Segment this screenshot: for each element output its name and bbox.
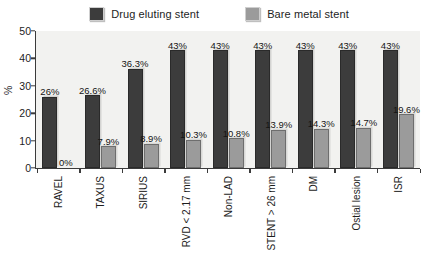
legend-item-bare-metal-stent: Bare metal stent: [245, 7, 349, 21]
bar: 43%: [213, 50, 228, 168]
bar: 26%: [42, 97, 57, 168]
y-axis: 50403020100: [0, 24, 35, 176]
legend-item-drug-eluting-stent: Drug eluting stent: [89, 7, 199, 21]
bar-value-label: 43%: [381, 41, 400, 51]
bar-group: 43%14.3%: [292, 31, 335, 168]
bar: 14.3%: [314, 129, 329, 168]
bar-value-label: 26.6%: [79, 86, 106, 96]
bar: 43%: [255, 50, 270, 168]
bar-value-label: 13.9%: [265, 120, 292, 130]
bar: 26.6%: [85, 95, 100, 168]
x-axis-category-label: ISR: [393, 176, 404, 193]
bar: 19.6%: [399, 114, 414, 168]
legend-swatch-bare-metal-stent: [245, 7, 260, 21]
x-axis-category-label: RVD < 2.17 mm: [180, 176, 191, 247]
bar: 36.3%: [128, 69, 143, 168]
bar: 7.9%: [101, 146, 116, 168]
bar-groups: 26%0%26.6%7.9%36.3%8.9%43%10.3%43%10.8%4…: [37, 31, 420, 168]
bar-value-label: 10.8%: [223, 129, 250, 139]
x-axis-label-cell: Ostial lesion: [335, 174, 378, 252]
legend-label-bare-metal-stent: Bare metal stent: [267, 8, 349, 20]
bar: 43%: [340, 50, 355, 168]
bar: 10.8%: [229, 138, 244, 168]
bar-value-label: 8.9%: [140, 134, 162, 144]
bar: 43%: [170, 50, 185, 168]
bar-group: 43%19.6%: [377, 31, 420, 168]
bar-value-label: 43%: [211, 41, 230, 51]
x-axis-category-label: STENT > 26 mm: [265, 176, 276, 251]
x-axis-label-cell: RAVEL: [37, 174, 80, 252]
bar-group: 26.6%7.9%: [79, 31, 122, 168]
x-axis-label-cell: SIRIUS: [122, 174, 165, 252]
bar-value-label: 14.3%: [308, 119, 335, 129]
bar: 8.9%: [144, 144, 159, 168]
bar-value-label: 26%: [40, 87, 59, 97]
bar-group: 43%10.8%: [207, 31, 250, 168]
x-axis-label-cell: DM: [292, 174, 335, 252]
x-axis-tick-mark: [122, 169, 123, 173]
bar-group: 36.3%8.9%: [122, 31, 165, 168]
x-axis-tick-mark: [79, 169, 80, 173]
y-axis-tick-label: 50: [19, 25, 31, 37]
x-axis-label-cell: Non-LAD: [207, 174, 250, 252]
y-axis-title: %: [2, 86, 14, 95]
bar-value-label: 14.7%: [350, 118, 377, 128]
bar-group: 43%13.9%: [249, 31, 292, 168]
bar-group: 43%14.7%: [335, 31, 378, 168]
x-axis-tick-mark: [420, 169, 421, 173]
bar-group: 26%0%: [37, 31, 80, 168]
bar-value-label: 43%: [296, 41, 315, 51]
x-axis-label-cell: ISR: [377, 174, 420, 252]
bar: 43%: [298, 50, 313, 168]
x-axis-label-cell: STENT > 26 mm: [249, 174, 292, 252]
bar-group: 43%10.3%: [164, 31, 207, 168]
y-axis-tick-label: 20: [19, 107, 31, 119]
bar-value-label: 43%: [253, 41, 272, 51]
x-axis-tick-mark: [164, 169, 165, 173]
bar: 13.9%: [271, 130, 286, 168]
y-axis-tick-label: 40: [19, 52, 31, 64]
legend-swatch-drug-eluting-stent: [89, 7, 104, 21]
x-axis-label-cell: TAXUS: [79, 174, 122, 252]
x-axis-category-label: RAVEL: [52, 176, 63, 208]
x-axis-category-label: Non-LAD: [223, 176, 234, 217]
bar-value-label: 10.3%: [180, 130, 207, 140]
bar-value-label: 36.3%: [122, 59, 149, 69]
x-axis-category-label: SIRIUS: [138, 176, 149, 209]
bar: 14.7%: [356, 128, 371, 168]
bar-value-label: 43%: [338, 41, 357, 51]
chart-legend: Drug eluting stent Bare metal stent: [0, 4, 438, 24]
bar-value-label: 7.9%: [98, 137, 120, 147]
x-axis-category-label: TAXUS: [95, 176, 106, 209]
bar-value-label: 19.6%: [393, 105, 420, 115]
bar-chart: Drug eluting stent Bare metal stent 5040…: [0, 0, 438, 254]
x-axis-labels: RAVELTAXUSSIRIUSRVD < 2.17 mmNon-LADSTEN…: [37, 174, 420, 252]
x-axis-tick-mark: [334, 169, 335, 173]
bar-value-label: 43%: [168, 41, 187, 51]
y-axis-tick-label: 30: [19, 80, 31, 92]
bar: 10.3%: [186, 140, 201, 168]
y-axis-tick-label: 10: [19, 135, 31, 147]
x-axis-tick-mark: [207, 169, 208, 173]
x-axis-tick-mark: [377, 169, 378, 173]
x-axis-label-cell: RVD < 2.17 mm: [164, 174, 207, 252]
legend-label-drug-eluting-stent: Drug eluting stent: [111, 8, 199, 20]
bar-value-label: 0%: [59, 158, 73, 168]
x-axis-tick-mark: [37, 169, 38, 173]
x-axis-tick-mark: [249, 169, 250, 173]
x-axis-tick-mark: [292, 169, 293, 173]
x-axis-category-label: Ostial lesion: [350, 176, 361, 230]
x-axis-category-label: DM: [308, 176, 319, 192]
